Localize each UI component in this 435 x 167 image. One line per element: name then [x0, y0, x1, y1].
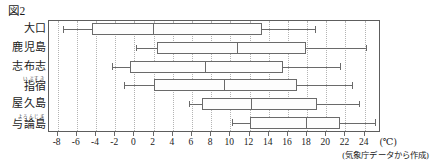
boxplot-大口 [0, 20, 435, 39]
whisker-cap-min [112, 63, 113, 70]
x-tick-label-22: 22 [340, 137, 350, 147]
x-tick-4 [172, 132, 173, 136]
whisker-cap-min [63, 26, 64, 33]
x-tick-22 [344, 132, 345, 136]
figure-caption: 図2 [8, 2, 26, 18]
x-tick-label-16: 16 [282, 137, 292, 147]
figure-2-boxplot: 図2 大口鹿児島志布志いぶすき指宿屋久島よろんじま与論島 -8-6-4-2024… [0, 0, 435, 167]
x-tick-label-12: 12 [244, 137, 254, 147]
x-tick-16 [287, 132, 288, 136]
x-tick--8 [57, 132, 58, 136]
median-line [251, 98, 252, 110]
x-tick-18 [306, 132, 307, 136]
boxplot-志布志 [0, 57, 435, 76]
x-tick-label-6: 6 [189, 137, 194, 147]
x-tick--2 [114, 132, 115, 136]
quartile-box [157, 42, 306, 54]
whisker-cap-min [232, 119, 233, 126]
quartile-box [202, 98, 316, 110]
whisker-cap-max [315, 26, 316, 33]
x-tick-label--4: -4 [91, 137, 99, 147]
whisker-cap-min [189, 101, 190, 108]
x-tick-label-24: 24 [359, 137, 369, 147]
median-line [153, 23, 154, 35]
x-tick-8 [210, 132, 211, 136]
x-tick-10 [229, 132, 230, 136]
x-tick-label-4: 4 [169, 137, 174, 147]
x-tick-label--6: -6 [72, 137, 80, 147]
x-tick-label--8: -8 [53, 137, 61, 147]
median-line [237, 42, 238, 54]
median-line [306, 117, 307, 129]
quartile-box [154, 79, 297, 91]
x-tick-6 [191, 132, 192, 136]
whisker-cap-max [366, 45, 367, 52]
boxplot-鹿児島 [0, 39, 435, 58]
median-line [205, 61, 206, 73]
axis-unit-label: (℃) [380, 137, 397, 147]
whisker-cap-min [124, 82, 125, 89]
median-line [224, 79, 225, 91]
quartile-box [92, 23, 262, 35]
x-tick-label-0: 0 [131, 137, 136, 147]
x-tick-label-14: 14 [263, 137, 273, 147]
x-tick-24 [364, 132, 365, 136]
x-tick-20 [325, 132, 326, 136]
whisker-cap-max [340, 63, 341, 70]
x-tick-label-2: 2 [150, 137, 155, 147]
x-tick-label-10: 10 [225, 137, 235, 147]
x-tick-0 [133, 132, 134, 136]
x-tick-12 [249, 132, 250, 136]
boxplot-指宿 [0, 76, 435, 95]
x-tick-label-20: 20 [321, 137, 331, 147]
boxplot-屋久島 [0, 95, 435, 114]
whisker-cap-max [359, 101, 360, 108]
quartile-box [250, 117, 339, 129]
x-tick-label-18: 18 [301, 137, 311, 147]
source-note: (気象庁データから作成) [342, 151, 429, 161]
x-tick--4 [95, 132, 96, 136]
boxplot-与論島 [0, 113, 435, 132]
x-tick-14 [268, 132, 269, 136]
x-tick--6 [76, 132, 77, 136]
whisker-cap-max [352, 82, 353, 89]
x-tick-2 [153, 132, 154, 136]
x-tick-label--2: -2 [110, 137, 118, 147]
whisker-cap-max [375, 119, 376, 126]
x-tick-label-8: 8 [208, 137, 213, 147]
whisker-cap-min [136, 45, 137, 52]
